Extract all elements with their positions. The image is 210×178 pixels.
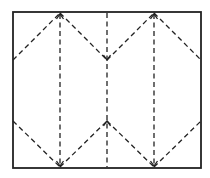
lower-right-inner-line xyxy=(107,121,154,167)
upper-right-outer-line xyxy=(154,13,201,60)
upper-left-outer-line xyxy=(13,13,60,60)
lower-left-inner-line xyxy=(60,121,107,167)
vertical-fold-lines xyxy=(60,13,154,167)
upper-right-inner-line xyxy=(107,13,154,60)
upper-left-inner-line xyxy=(60,13,107,60)
lower-right-outer-line xyxy=(154,121,201,167)
fold-diagram xyxy=(0,0,210,178)
diagram-canvas xyxy=(0,0,210,178)
lower-left-outer-line xyxy=(13,121,60,167)
